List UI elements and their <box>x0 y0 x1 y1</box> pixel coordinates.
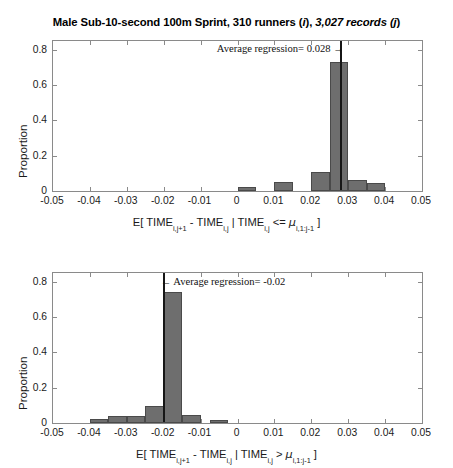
bottom-y-tick-right <box>418 352 422 353</box>
top-x-tick <box>90 187 91 191</box>
top-x-tick <box>164 187 165 191</box>
bottom-x-tick-top <box>127 273 128 277</box>
bottom-x-tick <box>385 419 386 423</box>
bottom-y-tick-right <box>418 317 422 318</box>
bottom-x-tick <box>238 419 239 423</box>
bottom-x-tick <box>201 419 202 423</box>
bot-xlabel-s1: i,j+1 <box>176 456 190 465</box>
top-x-axis-label: E[ TIMEi,j+1 - TIMEi,j | TIMEi,j <= μi,1… <box>0 216 453 229</box>
bottom-x-tick-label: -0.01 <box>188 427 211 438</box>
bottom-x-tick-label: -0.02 <box>151 427 174 438</box>
top-x-tick <box>127 187 128 191</box>
top-y-tick-right <box>418 85 422 86</box>
top-xlabel-s3: i,j <box>264 224 269 233</box>
top-x-tick-label: -0.01 <box>188 195 211 206</box>
bot-xlabel-p3: | TIME <box>232 448 268 460</box>
histogram-bar <box>348 180 366 191</box>
top-xlabel-s2: i,j <box>223 224 228 233</box>
bottom-y-tick <box>53 352 57 353</box>
top-x-tick-label: 0.03 <box>337 195 357 206</box>
histogram-bar <box>127 416 145 423</box>
figure-title-j: 3,027 records (j <box>315 16 396 28</box>
figure-title-part2: ), <box>306 16 316 28</box>
top-y-tick-right <box>418 156 422 157</box>
top-xlabel-mu: μ <box>289 216 296 229</box>
bottom-y-tick <box>53 388 57 389</box>
bottom-x-tick-top <box>348 273 349 277</box>
bottom-x-tick <box>311 419 312 423</box>
top-x-tick-label: 0.02 <box>300 195 320 206</box>
top-xlabel-p2: - TIME <box>187 216 223 228</box>
top-y-tick-right <box>418 120 422 121</box>
bottom-y-tick-right <box>418 282 422 283</box>
top-x-tick-label: -0.03 <box>114 195 137 206</box>
top-y-tick-right <box>418 50 422 51</box>
top-annotation: Average regression= 0.028 → <box>0 43 344 54</box>
bottom-x-tick-label: 0.04 <box>374 427 394 438</box>
bot-xlabel-p2: - TIME <box>190 448 226 460</box>
bottom-y-tick-label: 0.4 <box>16 346 47 357</box>
top-x-tick-top <box>385 41 386 45</box>
figure-title-part1: Male Sub-10-second 100m Sprint, 310 runn… <box>53 16 303 28</box>
top-x-tick <box>201 187 202 191</box>
histogram-bar <box>145 406 163 423</box>
top-xlabel-s4: i,1:j-1 <box>296 224 314 233</box>
bottom-x-tick-top <box>90 273 91 277</box>
histogram-bar <box>90 419 108 423</box>
bot-xlabel-p5: ] <box>311 448 317 460</box>
bottom-y-tick-right <box>418 388 422 389</box>
bot-xlabel-p1: E[ TIME <box>136 448 176 460</box>
top-mean-line <box>340 41 342 190</box>
bottom-y-tick-label: 0 <box>16 417 47 428</box>
bot-xlabel-s3: i,j <box>267 456 272 465</box>
bottom-y-tick-label: 0.2 <box>16 381 47 392</box>
histogram-bar <box>311 172 329 191</box>
top-y-tick-label: 0 <box>16 185 47 196</box>
histogram-bar <box>108 416 126 423</box>
bottom-x-axis-label: E[ TIMEi,j+1 - TIMEi,j | TIMEi,j > μi,1:… <box>0 448 453 461</box>
top-x-tick-label: -0.02 <box>151 195 174 206</box>
histogram-bar <box>210 420 228 423</box>
bottom-panel: Proportion E[ TIMEi,j+1 - TIMEi,j | TIME… <box>0 250 453 468</box>
top-xlabel-p3: | TIME <box>229 216 265 228</box>
histogram-bar <box>367 183 385 191</box>
bottom-mean-line <box>163 273 165 422</box>
figure-title-part3: ) <box>397 16 401 28</box>
top-x-tick <box>385 187 386 191</box>
bottom-x-tick-label: -0.03 <box>114 427 137 438</box>
top-x-tick-label: 0.05 <box>411 195 431 206</box>
bot-xlabel-mu: μ <box>286 448 293 461</box>
bottom-plot-area <box>52 272 423 424</box>
top-y-tick-label: 0.2 <box>16 149 47 160</box>
top-y-tick-label: 0.6 <box>16 79 47 90</box>
bottom-x-tick-label: 0.01 <box>263 427 283 438</box>
histogram-bar <box>274 182 292 191</box>
figure-root: Male Sub-10-second 100m Sprint, 310 runn… <box>0 0 453 468</box>
top-xlabel-p4: <= <box>270 216 289 228</box>
top-xlabel-p1: E[ TIME <box>133 216 173 228</box>
top-x-tick-label: 0.04 <box>374 195 394 206</box>
top-y-tick <box>53 156 57 157</box>
figure-title: Male Sub-10-second 100m Sprint, 310 runn… <box>0 16 453 28</box>
top-x-tick-top <box>348 41 349 45</box>
bottom-x-tick-label: 0 <box>234 427 240 438</box>
bottom-x-tick-label: 0.02 <box>300 427 320 438</box>
bottom-y-tick <box>53 282 57 283</box>
bot-xlabel-p4: > <box>273 448 286 460</box>
bottom-x-tick <box>348 419 349 423</box>
top-y-tick <box>53 120 57 121</box>
bottom-x-tick-label: 0.05 <box>411 427 431 438</box>
bottom-y-tick-label: 0.6 <box>16 311 47 322</box>
histogram-bar <box>182 415 200 423</box>
top-plot-area <box>52 40 423 192</box>
bottom-annotation: ← Average regression= -0.02 <box>161 276 286 287</box>
top-panel: Proportion E[ TIMEi,j+1 - TIMEi,j | TIME… <box>0 30 453 245</box>
bottom-x-tick-label: -0.04 <box>77 427 100 438</box>
histogram-bar <box>238 187 256 191</box>
bottom-y-tick <box>53 317 57 318</box>
bottom-x-tick-top <box>311 273 312 277</box>
bot-xlabel-s2: i,j <box>226 456 231 465</box>
top-y-tick-label: 0.4 <box>16 114 47 125</box>
bottom-x-tick <box>274 419 275 423</box>
histogram-bar <box>164 292 182 423</box>
